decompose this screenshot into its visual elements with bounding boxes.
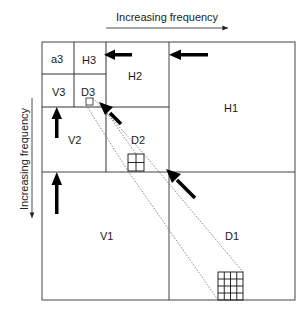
d2-coefficient-grid [128, 154, 144, 171]
wavelet-diagram: Increasing frequency Increasing frequenc… [0, 0, 306, 313]
arrow-up-v3-icon [52, 107, 63, 138]
subband-d1: D1 [225, 230, 239, 242]
subband-v2: V2 [68, 134, 81, 146]
projection-lines [86, 98, 243, 300]
subband-a3: a3 [51, 53, 63, 65]
horizontal-axis-label: Increasing frequency [116, 11, 219, 23]
vertical-axis-label: Increasing frequency [18, 107, 30, 210]
arrow-up-v2-icon [52, 172, 63, 214]
subband-v1: V1 [100, 230, 113, 242]
arrow-diagonal-d3-icon [99, 102, 121, 124]
arrow-left-h3-icon [104, 50, 132, 61]
subband-d3: D3 [81, 86, 95, 98]
subband-h2: H2 [128, 70, 142, 82]
arrow-diagonal-d2-icon [166, 169, 195, 198]
subband-h1: H1 [224, 102, 238, 114]
arrow-left-h2-icon [169, 50, 208, 61]
d1-coefficient-grid [218, 272, 243, 300]
subband-h3: H3 [82, 54, 96, 66]
d3-coefficient-square [86, 98, 93, 105]
subband-d2: D2 [131, 134, 145, 146]
subband-v3: V3 [52, 86, 65, 98]
